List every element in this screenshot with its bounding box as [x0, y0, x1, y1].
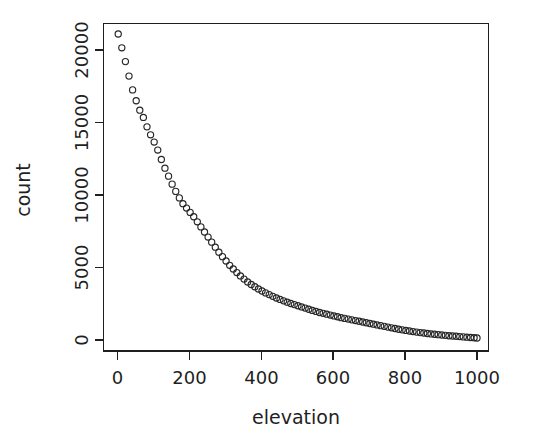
plot-canvas: 0 5000 10000 15000 20000 0 200 400 600 8… [0, 0, 533, 448]
x-axis-ticks [118, 351, 478, 360]
y-tick-labels: 0 5000 10000 15000 20000 [71, 21, 92, 345]
x-tick-label-0: 0 [112, 367, 123, 388]
y-axis-title: count [12, 163, 34, 217]
y-axis-ticks [95, 50, 104, 340]
data-point-group [115, 31, 480, 341]
data-point [144, 124, 150, 130]
data-point [155, 147, 161, 153]
data-point [137, 107, 143, 113]
data-point [165, 173, 171, 179]
data-point [140, 114, 146, 120]
data-point [162, 165, 168, 171]
data-point [158, 156, 164, 162]
x-tick-label-200: 200 [172, 367, 206, 388]
data-point [176, 195, 182, 201]
x-tick-label-1000: 1000 [454, 367, 500, 388]
data-point [133, 98, 139, 104]
y-tick-label-20000: 20000 [71, 21, 92, 78]
data-point [230, 266, 236, 272]
data-point [122, 59, 128, 65]
data-point [151, 139, 157, 145]
data-point [126, 73, 132, 79]
scatter-plot-figure: 0 5000 10000 15000 20000 0 200 400 600 8… [0, 0, 533, 448]
data-point [147, 132, 153, 138]
x-tick-label-400: 400 [244, 367, 278, 388]
data-point [130, 87, 136, 93]
y-tick-label-5000: 5000 [71, 245, 92, 291]
data-point [115, 31, 121, 37]
x-axis-title: elevation [252, 406, 340, 428]
data-point [119, 45, 125, 51]
data-point [227, 262, 233, 268]
data-point [173, 188, 179, 194]
data-point [284, 299, 290, 305]
y-tick-label-0: 0 [71, 334, 92, 345]
x-tick-label-600: 600 [316, 367, 350, 388]
data-point [169, 181, 175, 187]
y-tick-label-15000: 15000 [71, 94, 92, 151]
y-tick-label-10000: 10000 [71, 166, 92, 223]
x-tick-labels: 0 200 400 600 800 1000 [112, 367, 500, 388]
x-tick-label-800: 800 [388, 367, 422, 388]
